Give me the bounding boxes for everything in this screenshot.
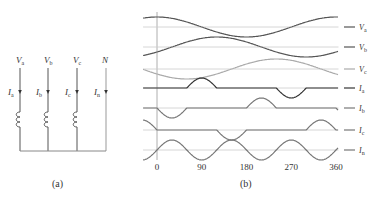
trace-ia: Ia: [143, 78, 365, 98]
x-axis-ticks: 090180270360: [155, 162, 344, 172]
voltage-label: Va: [16, 55, 25, 66]
conductor-b: VbIb: [35, 55, 53, 151]
voltage-label: Vc: [73, 55, 82, 66]
three-phase-diagram: VaIaVbIbVcIcNIn (a) VaVbVcIaIbIcIn 09018…: [0, 0, 380, 198]
trace-vb: Vb: [143, 37, 367, 57]
legend-label: Va: [359, 23, 367, 33]
trace-va: Va: [143, 17, 367, 37]
current-label: Ib: [35, 87, 42, 98]
current-arrow-icon: [104, 90, 108, 94]
circuit-schematic: VaIaVbIbVcIcNIn: [7, 55, 109, 151]
current-label: Ic: [64, 87, 71, 98]
inductor-coil-icon: [73, 112, 77, 127]
inductor-coil-icon: [44, 112, 48, 127]
current-label: In: [93, 87, 100, 98]
trace-vc: Vc: [143, 59, 367, 79]
conductor-c: VcIc: [64, 55, 82, 151]
current-arrow-icon: [46, 90, 50, 94]
legend-label: Ib: [358, 104, 365, 114]
current-arrow-icon: [18, 90, 22, 94]
inductor-coil-icon: [16, 112, 20, 127]
trace-ic: Ic: [143, 120, 365, 140]
legend-label: Ic: [358, 126, 365, 136]
legend-label: Vc: [359, 65, 367, 75]
x-tick-label: 180: [240, 162, 254, 172]
trace-ib: Ib: [143, 98, 365, 118]
legend-label: Ia: [358, 84, 365, 94]
x-tick-label: 0: [155, 162, 160, 172]
trace-in: In: [143, 140, 365, 160]
caption-b: (b): [240, 178, 252, 190]
current-label: Ia: [7, 87, 14, 98]
x-tick-label: 270: [285, 162, 299, 172]
voltage-label: Vb: [44, 55, 53, 66]
waveform: [143, 78, 338, 98]
current-arrow-icon: [75, 90, 79, 94]
caption-a: (a): [52, 178, 63, 190]
waveform-plot: VaVbVcIaIbIcIn: [143, 12, 367, 160]
legend-label: In: [358, 146, 365, 156]
x-tick-label: 360: [329, 162, 343, 172]
x-tick-label: 90: [197, 162, 207, 172]
legend-label: Vb: [359, 43, 367, 53]
conductor-a: VaIa: [7, 55, 25, 151]
conductor-n: NIn: [93, 55, 109, 151]
voltage-label: N: [101, 55, 109, 65]
